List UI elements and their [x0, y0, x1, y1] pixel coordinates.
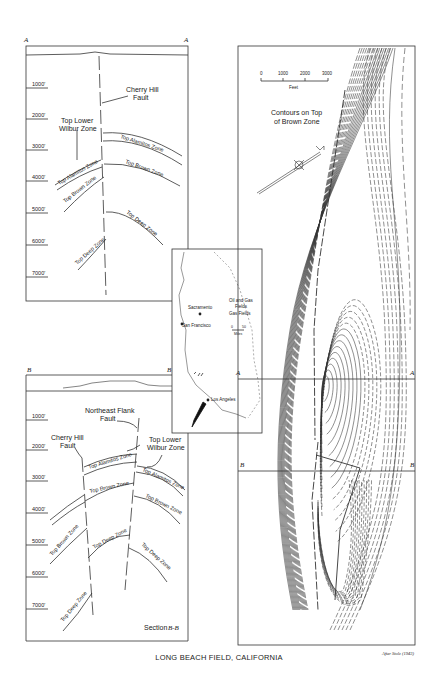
contour-line [402, 48, 410, 330]
figure-title: LONG BEACH FIELD, CALIFORNIA [155, 653, 282, 662]
contour-line [318, 480, 358, 596]
zone-label: Top Alamitos Zone [88, 451, 133, 470]
contour-line [318, 480, 351, 592]
city-label: Los Angeles [211, 397, 236, 402]
section-a: A A [23, 36, 189, 301]
city-label: Sacramento [188, 305, 213, 310]
wilbur-label-b: Wilbur Zone [147, 444, 185, 451]
scale-tick-label: 0 [260, 71, 263, 76]
section-a-end-right: A [183, 36, 189, 44]
zone-label: Top Brown Zone [125, 158, 165, 177]
map-fault-east [312, 442, 318, 610]
zone-label: Top Brown Zone [145, 493, 184, 516]
inset-map [172, 249, 262, 433]
section-a-end-left: A [23, 36, 29, 44]
contour-line [322, 364, 338, 423]
depth-label: 7000' [32, 602, 45, 608]
depth-label: 6000' [32, 238, 45, 244]
map-title: of Brown Zone [274, 118, 320, 125]
zone-label: Top Alamitos Zone [142, 466, 186, 490]
depth-label: 1000' [32, 81, 45, 87]
scale-tick-label: 3000 [322, 71, 333, 76]
map-title: Contours on Top [271, 109, 322, 117]
ch-fault-label: Cherry Hill [51, 434, 84, 442]
ne-fault-label: Fault [100, 415, 116, 422]
section-id: B-B [168, 624, 180, 632]
contour-line [321, 317, 369, 510]
section-b-labels: 1000' 2000' 3000' 4000' 5000' 6000' 7000… [32, 407, 185, 632]
fault-leader-a [102, 96, 128, 103]
section-a-surface [26, 52, 188, 55]
section-a-labels: 1000' 2000' 3000' 4000' 5000' 6000' 7000… [32, 81, 165, 276]
section-b-end-left: B [27, 366, 32, 374]
zone-label: Top Brown Zone [48, 523, 79, 557]
depth-label: 2000' [32, 443, 45, 449]
map-fault-west [314, 90, 345, 440]
depth-label: 3000' [32, 474, 45, 480]
legend-oil-gas: Fields [235, 304, 248, 309]
deep-right-b [129, 548, 167, 582]
zone-label: Top Deep Zone [140, 541, 172, 571]
scale-tick-label: 1000 [278, 71, 289, 76]
contour-line [320, 306, 376, 532]
contour-line [321, 311, 373, 520]
alamitos-left-b-1 [50, 495, 84, 520]
ne-fault-label: Northeast Flank [85, 407, 135, 414]
contour-line [334, 48, 390, 630]
inset-scale-start: 0 [231, 325, 233, 329]
contour-map-frame [238, 46, 415, 645]
zone-label: Top Deep Zone [92, 527, 128, 550]
ch-fault-label: Fault [60, 442, 76, 449]
scale-tick-label: 2000 [300, 71, 311, 76]
figure-canvas: A A 1000' 2000' 3000' 4000' 5000' 6000 [0, 0, 439, 675]
depth-label: 7000' [32, 270, 45, 276]
section-line-b-right: B [410, 461, 415, 469]
zone-label: Top Deep Zone [59, 590, 88, 623]
contour-line [318, 480, 360, 597]
cherry-hill-fault-a [99, 56, 106, 295]
legend-oil-gas: Oil and Gas [229, 298, 254, 303]
zone-label: Top Deep Zone [74, 236, 106, 266]
city-label: San Francisco [182, 323, 211, 328]
wilbur-leader-b1 [127, 445, 140, 451]
northeast-flank-fault-b [125, 418, 139, 590]
depth-label: 2000' [32, 112, 45, 118]
wilbur-label: Top Lower [61, 117, 94, 125]
contour-line [287, 48, 371, 610]
scale-unit: Feet [289, 85, 299, 90]
contour-line [321, 358, 341, 434]
sacramento-dot [199, 313, 202, 316]
contour-lines [278, 48, 410, 630]
wilbur-label-b: Top Lower [149, 436, 182, 444]
legend-gas: Gas Fields [229, 311, 251, 316]
contour-line [318, 480, 353, 593]
depth-label: 1000' [32, 413, 45, 419]
los-angeles-dot [207, 399, 210, 402]
north-arrow-icon [257, 146, 324, 194]
ne-fault-leader [117, 421, 137, 428]
map-fault-block [316, 455, 360, 600]
section-line-b-left: B [240, 461, 245, 469]
wilbur-leader-b2 [147, 455, 162, 467]
contour-line [338, 48, 394, 630]
contour-line [318, 480, 367, 602]
zone-label: Top Brown Zone [89, 480, 129, 494]
contour-line [290, 48, 362, 610]
fault-label: Cherry Hill [126, 86, 159, 94]
section-b-end-right: B [167, 366, 172, 374]
fault-label: Fault [133, 94, 149, 101]
depth-label: 3000' [32, 143, 45, 149]
contour-line [342, 48, 398, 630]
contour-line [360, 48, 400, 610]
section-line-a-left: A [235, 369, 241, 377]
depth-label: 4000' [32, 506, 45, 512]
contour-line [285, 48, 375, 610]
section-line-a-right: A [409, 369, 415, 377]
ch-fault-leader [75, 448, 82, 458]
figure-credit: After Stolz (1943) [381, 651, 414, 656]
depth-label: 6000' [32, 570, 45, 576]
contour-line [320, 300, 381, 543]
contour-line [318, 480, 372, 605]
wilbur-label: Wilbur Zone [59, 125, 97, 132]
inset-scale-end: 50 [242, 325, 246, 329]
